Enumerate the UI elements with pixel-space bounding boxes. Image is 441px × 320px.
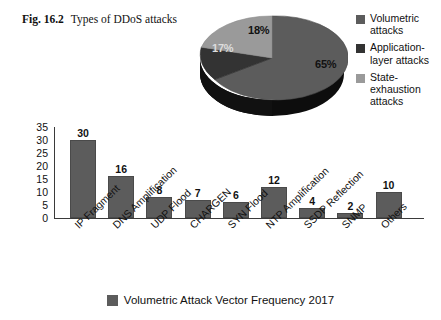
x-axis-labels: IP FragmentDNS AmplificationUDP FloodCHA… <box>24 222 434 294</box>
bar-plot-area: 3016876124210 <box>55 127 424 218</box>
y-tick-25: 25 <box>24 147 48 159</box>
state-exhaustion-swatch <box>356 74 365 83</box>
pie-value-volumetric: 65% <box>315 58 336 70</box>
pie-value-state-exhaustion: 18% <box>248 24 269 36</box>
bar-value-label: 10 <box>376 179 402 192</box>
application-layer-swatch <box>356 44 365 53</box>
pie-legend-label-state-exhaustion: State-exhaustion attacks <box>370 71 441 108</box>
y-axis: 35 30 25 20 15 10 5 0 <box>24 124 48 220</box>
bar-chart-legend: Volumetric Attack Vector Frequency 2017 <box>0 294 441 306</box>
pie-legend-item: Application-layer attacks <box>356 41 441 65</box>
volumetric-frequency-swatch <box>107 295 118 306</box>
bar-value-label: 30 <box>70 127 96 140</box>
bar-chart-legend-label: Volumetric Attack Vector Frequency 2017 <box>124 294 334 306</box>
y-tick-5: 5 <box>24 199 48 211</box>
pie-legend-label-application-layer: Application-layer attacks <box>370 41 441 65</box>
y-tick-35: 35 <box>24 121 48 133</box>
y-tick-30: 30 <box>24 134 48 146</box>
figure-caption-text: Types of DDoS attacks <box>71 13 177 25</box>
pie-legend-label-volumetric: Volumetric attacks <box>370 12 441 36</box>
figure-caption: Fig. 16.2Types of DDoS attacks <box>22 12 182 26</box>
figure-number: Fig. 16.2 <box>22 13 64 25</box>
figure-container: Fig. 16.2Types of DDoS attacks 65% 17% 1… <box>0 0 441 320</box>
volumetric-swatch <box>356 15 365 24</box>
y-tick-15: 15 <box>24 173 48 185</box>
pie-chart: 65% 17% 18% <box>196 6 348 118</box>
y-tick-10: 10 <box>24 186 48 198</box>
pie-legend-item: State-exhaustion attacks <box>356 71 441 108</box>
pie-legend: Volumetric attacks Application-layer att… <box>356 12 441 112</box>
y-tick-20: 20 <box>24 160 48 172</box>
bar-value-label: 12 <box>261 174 287 187</box>
pie-value-application-layer: 17% <box>212 42 233 54</box>
bar-value-label: 16 <box>108 163 134 176</box>
pie-legend-item: Volumetric attacks <box>356 12 441 36</box>
